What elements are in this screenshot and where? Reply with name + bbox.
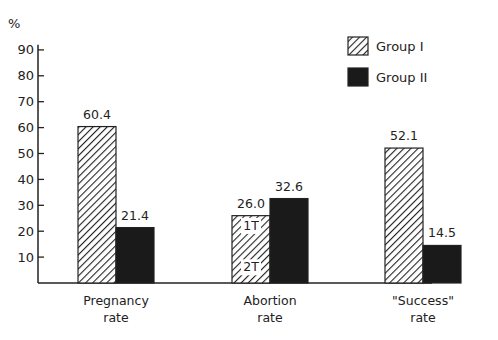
bar-annotation: 2T xyxy=(243,259,259,274)
value-label: 26.0 xyxy=(237,196,265,211)
y-axis: %102030405060708090 xyxy=(8,16,432,283)
category-label: rate xyxy=(410,310,436,325)
y-tick-label: 40 xyxy=(17,172,34,187)
bar-annotation: 1T xyxy=(243,218,259,233)
legend-swatch-group-i xyxy=(348,37,368,55)
legend: Group IGroup II xyxy=(348,37,427,86)
y-tick-label: 50 xyxy=(17,146,34,161)
bar-group-i-2 xyxy=(385,148,423,283)
category-labels: PregnancyrateAbortionrate"Success"rate xyxy=(83,293,454,325)
y-tick-label: 10 xyxy=(17,250,34,265)
bar-chart: %102030405060708090 60.426.052.121.432.6… xyxy=(0,0,498,340)
bar-group-ii-0 xyxy=(116,228,154,283)
bars: 60.426.052.121.432.614.51T2T xyxy=(78,107,461,283)
category-label: rate xyxy=(103,310,129,325)
value-label: 21.4 xyxy=(121,208,149,223)
y-tick-label: 70 xyxy=(17,94,34,109)
category-label: rate xyxy=(257,310,283,325)
y-tick-label: 60 xyxy=(17,120,34,135)
y-axis-label: % xyxy=(8,16,20,31)
legend-label: Group I xyxy=(376,39,424,54)
value-label: 32.6 xyxy=(275,179,303,194)
category-label: Abortion xyxy=(243,293,296,308)
legend-label: Group II xyxy=(376,70,427,85)
category-label: "Success" xyxy=(392,293,454,308)
bar-group-ii-1 xyxy=(270,199,308,283)
bar-group-i-0 xyxy=(78,127,116,283)
y-tick-label: 90 xyxy=(17,42,34,57)
legend-swatch-group-ii xyxy=(348,68,368,86)
value-label: 60.4 xyxy=(83,107,111,122)
category-label: Pregnancy xyxy=(83,293,149,308)
value-label: 52.1 xyxy=(390,128,418,143)
bar-group-ii-2 xyxy=(423,245,461,283)
y-tick-label: 80 xyxy=(17,68,34,83)
y-tick-label: 20 xyxy=(17,224,34,239)
y-tick-label: 30 xyxy=(17,198,34,213)
value-label: 14.5 xyxy=(428,225,456,240)
